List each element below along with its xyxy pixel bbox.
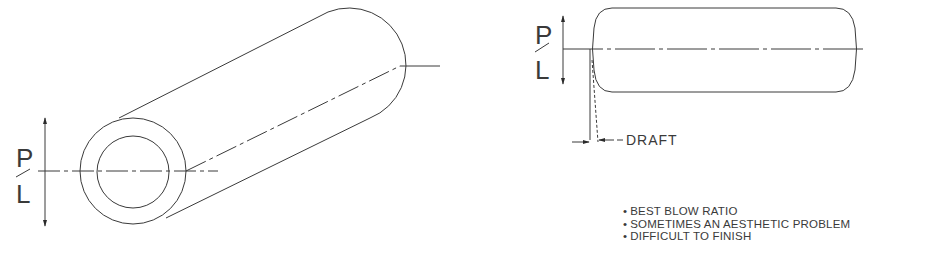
tube-pl-label-p: P [16, 145, 33, 171]
tube-pl-label-l: L [16, 181, 30, 207]
draft-angled-line [592, 60, 598, 142]
tube-bottom-edge [166, 118, 370, 218]
note-item: BEST BLOW RATIO [623, 205, 850, 218]
part-pl-label-l: L [535, 57, 549, 83]
part-pl-label-p: P [535, 22, 552, 48]
note-item: DIFFICULT TO FINISH [623, 230, 850, 243]
notes-list: BEST BLOW RATIO SOMETIMES AN AESTHETIC P… [623, 205, 850, 243]
tube-far-end-arc [328, 8, 406, 118]
draft-label: DRAFT [626, 133, 678, 147]
part-side-view [535, 8, 866, 142]
tube-top-edge [119, 12, 328, 118]
tube-isometric [16, 8, 440, 226]
part-outline [593, 8, 857, 92]
tube-inner-circle [97, 136, 169, 208]
note-item: SOMETIMES AN AESTHETIC PROBLEM [623, 218, 850, 231]
